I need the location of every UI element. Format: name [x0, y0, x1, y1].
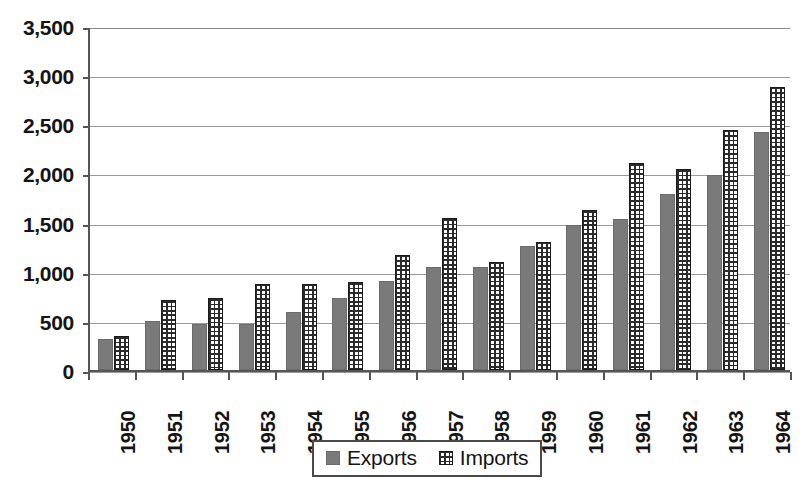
bar-group: [464, 28, 511, 370]
bar-imports: [114, 336, 129, 370]
bar-exports: [145, 321, 160, 370]
bar-chart: 05001,0001,5002,0002,5003,0003,500 19501…: [0, 0, 801, 487]
bar-imports: [676, 169, 691, 370]
x-tick-mark: [228, 372, 230, 380]
bar-group: [371, 28, 418, 370]
x-tick-mark: [556, 372, 558, 380]
x-tick-mark: [790, 372, 792, 380]
y-tick-label: 1,500: [23, 213, 74, 237]
legend-label-imports: Imports: [460, 446, 529, 470]
x-tick-mark: [603, 372, 605, 380]
bar-group: [418, 28, 465, 370]
y-tick-mark: [83, 323, 90, 325]
bar-exports: [613, 219, 628, 370]
bar-group: [511, 28, 558, 370]
bar-imports: [255, 284, 270, 370]
bar-imports: [302, 284, 317, 370]
bar-group: [90, 28, 137, 370]
bar-group: [698, 28, 745, 370]
bar-imports: [348, 282, 363, 370]
y-tick-mark: [83, 225, 90, 227]
x-tick-mark: [275, 372, 277, 380]
bar-group: [137, 28, 184, 370]
bar-imports: [770, 87, 785, 370]
bar-exports: [239, 324, 254, 370]
bar-group: [230, 28, 277, 370]
x-tick-label: 1960: [585, 384, 608, 454]
x-tick-label: 1950: [117, 384, 140, 454]
bar-imports: [208, 298, 223, 370]
legend-entry-imports[interactable]: Imports: [439, 446, 529, 470]
bar-group: [745, 28, 792, 370]
x-tick-label: 1952: [211, 384, 234, 454]
bar-group: [277, 28, 324, 370]
bar-exports: [754, 132, 769, 370]
bar-exports: [566, 225, 581, 370]
bar-exports: [660, 194, 675, 370]
x-tick-label: 1964: [772, 384, 795, 454]
y-tick-label: 1,000: [23, 262, 74, 286]
y-tick-label: 2,500: [23, 114, 74, 138]
y-axis: 05001,0001,5002,0002,5003,0003,500: [0, 0, 88, 487]
bar-exports: [379, 281, 394, 370]
y-tick-label: 3,000: [23, 65, 74, 89]
y-tick-mark: [83, 28, 90, 30]
y-tick-mark: [83, 77, 90, 79]
legend-swatch-exports-icon: [326, 451, 340, 465]
x-tick-mark: [650, 372, 652, 380]
legend-label-exports: Exports: [347, 446, 417, 470]
bar-imports: [536, 242, 551, 370]
bar-imports: [629, 163, 644, 370]
bar-exports: [332, 298, 347, 370]
bar-exports: [473, 267, 488, 370]
x-tick-mark: [743, 372, 745, 380]
legend-entry-exports[interactable]: Exports: [326, 446, 417, 470]
x-tick-label: 1961: [632, 384, 655, 454]
bar-group: [652, 28, 699, 370]
bar-group: [558, 28, 605, 370]
bar-imports: [582, 210, 597, 370]
y-tick-label: 500: [40, 311, 74, 335]
y-tick-label: 0: [63, 360, 74, 384]
bar-group: [184, 28, 231, 370]
bar-imports: [161, 300, 176, 370]
x-tick-mark: [416, 372, 418, 380]
bars-layer: [90, 28, 790, 370]
bar-exports: [98, 339, 113, 370]
x-tick-mark: [509, 372, 511, 380]
bar-imports: [723, 130, 738, 370]
x-tick-label: 1951: [164, 384, 187, 454]
y-tick-mark: [83, 175, 90, 177]
x-tick-mark: [696, 372, 698, 380]
bar-group: [324, 28, 371, 370]
bar-imports: [442, 218, 457, 370]
y-tick-label: 3,500: [23, 16, 74, 40]
bar-exports: [520, 246, 535, 370]
y-tick-mark: [83, 126, 90, 128]
y-tick-mark: [83, 274, 90, 276]
bar-exports: [192, 324, 207, 370]
x-tick-mark: [462, 372, 464, 380]
chart-legend: Exports Imports: [312, 440, 542, 477]
x-tick-mark: [135, 372, 137, 380]
x-tick-mark: [182, 372, 184, 380]
x-tick-mark: [322, 372, 324, 380]
bar-exports: [426, 267, 441, 370]
bar-imports: [395, 255, 410, 370]
plot-area: [88, 28, 790, 372]
x-tick-label: 1963: [725, 384, 748, 454]
bar-imports: [489, 262, 504, 370]
y-tick-label: 2,000: [23, 163, 74, 187]
x-tick-label: 1962: [679, 384, 702, 454]
bar-exports: [707, 175, 722, 370]
x-tick-mark: [369, 372, 371, 380]
x-tick-mark: [88, 372, 90, 380]
bar-group: [605, 28, 652, 370]
bar-exports: [286, 312, 301, 370]
x-tick-label: 1953: [257, 384, 280, 454]
legend-swatch-imports-icon: [439, 451, 453, 465]
